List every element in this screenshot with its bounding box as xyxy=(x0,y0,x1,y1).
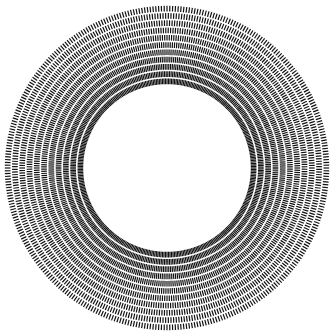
ring-grating-graphic xyxy=(0,0,335,336)
ring-grating-image xyxy=(0,0,335,336)
